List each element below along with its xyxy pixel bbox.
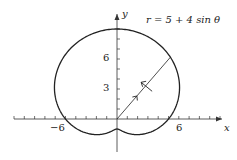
x-tick-neg6: −6 [50, 122, 65, 133]
radial-line [117, 57, 170, 119]
chart-title: r = 5 + 4 sin θ [146, 14, 220, 25]
x-tick-6: 6 [176, 122, 182, 133]
polar-chart: r = 5 + 4 sin θ y x −6 6 6 3 [0, 0, 237, 160]
y-tick-6: 6 [103, 52, 109, 63]
x-axis-label: x [224, 122, 230, 133]
rotation-arrow-icon [141, 81, 152, 91]
y-tick-3: 3 [103, 82, 109, 93]
y-axis-label: y [122, 8, 128, 19]
y-axis-arrow-icon [115, 14, 120, 20]
x-axis-arrow-icon [216, 117, 222, 122]
